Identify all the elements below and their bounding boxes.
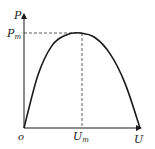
pm-label: Pm — [6, 27, 21, 41]
origin-label: o — [18, 131, 24, 142]
y-axis-label: P — [13, 9, 22, 22]
x-axis-label: U — [134, 133, 144, 146]
um-label-sub: m — [82, 136, 89, 144]
pm-label-sub: m — [14, 33, 21, 41]
um-label: Um — [73, 130, 89, 144]
pu-diagram: P Pm o Um U — [0, 0, 155, 149]
